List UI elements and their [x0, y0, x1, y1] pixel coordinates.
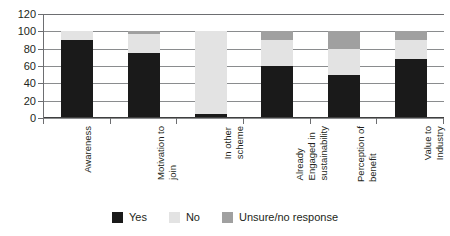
bar-segment-no[interactable]	[61, 31, 93, 40]
bar-segment-yes[interactable]	[61, 40, 93, 118]
stacked-bar[interactable]	[195, 31, 227, 118]
stacked-bar[interactable]	[395, 31, 427, 118]
bar-segment-unsure-no-response[interactable]	[261, 31, 293, 40]
bar-segment-yes[interactable]	[261, 66, 293, 118]
y-axis-tick-mark	[38, 49, 43, 50]
bar-slot	[244, 14, 311, 118]
legend-swatch-icon	[112, 212, 123, 223]
legend-item[interactable]: No	[169, 212, 200, 223]
y-axis-tick-label: 60	[24, 61, 36, 72]
y-axis-tick-label: 100	[18, 26, 36, 37]
y-axis-tick-labels: 120100806040200	[0, 0, 36, 122]
bar-segment-no[interactable]	[128, 34, 160, 53]
y-axis-tick-mark	[38, 31, 43, 32]
stacked-bar[interactable]	[328, 31, 360, 118]
x-axis-label-slot: Value to Industry	[376, 124, 443, 198]
bar-segment-yes[interactable]	[128, 53, 160, 118]
chart-legend: YesNoUnsure/no response	[0, 204, 450, 230]
y-axis-tick-mark	[38, 14, 43, 15]
x-axis-category-labels: AwarenessMotivation to joinIn other sche…	[43, 124, 443, 198]
stacked-bar[interactable]	[128, 31, 160, 118]
x-axis-label-slot: In other scheme	[176, 124, 243, 198]
bar-segment-no[interactable]	[261, 40, 293, 66]
legend-label: Yes	[129, 212, 147, 223]
legend-swatch-icon	[169, 212, 180, 223]
legend-item[interactable]: Unsure/no response	[222, 212, 338, 223]
bar-segment-no[interactable]	[328, 49, 360, 75]
bar-slot	[177, 14, 244, 118]
x-axis-label-slot: Perception of benefit	[310, 124, 377, 198]
legend-label: No	[186, 212, 200, 223]
x-axis-tick-mark	[443, 118, 444, 124]
bar-segment-unsure-no-response[interactable]	[395, 31, 427, 40]
x-axis-label-slot: Motivation to join	[110, 124, 177, 198]
x-axis-label-slot: Awareness	[43, 124, 110, 198]
x-axis-category-label: Value to Industry	[422, 126, 446, 160]
stacked-bar[interactable]	[261, 31, 293, 118]
y-axis-tick-mark	[38, 101, 43, 102]
y-axis-tick-label: 80	[24, 43, 36, 54]
bar-slot	[111, 14, 178, 118]
y-axis-tick-mark	[38, 83, 43, 84]
y-axis-tick-label: 20	[24, 95, 36, 106]
legend-label: Unsure/no response	[239, 212, 338, 223]
bar-segment-no[interactable]	[195, 31, 227, 113]
legend-swatch-icon	[222, 212, 233, 223]
bar-group	[44, 14, 444, 118]
bar-segment-yes[interactable]	[328, 75, 360, 118]
bar-slot	[311, 14, 378, 118]
bar-segment-no[interactable]	[395, 40, 427, 59]
y-axis-tick-label: 40	[24, 78, 36, 89]
y-axis-tick-label: 0	[30, 113, 36, 124]
y-axis-tick-mark	[38, 66, 43, 67]
x-axis-category-label: Awareness	[82, 126, 94, 173]
plot-wrapper: 120100806040200 AwarenessMotivation to j…	[0, 0, 450, 200]
plot-area	[43, 14, 444, 118]
y-axis-tick-label: 120	[18, 9, 36, 20]
bar-segment-yes[interactable]	[395, 59, 427, 118]
legend-item[interactable]: Yes	[112, 212, 147, 223]
stacked-bar[interactable]	[61, 31, 93, 118]
bar-slot	[377, 14, 444, 118]
bar-segment-unsure-no-response[interactable]	[328, 31, 360, 48]
x-axis-label-slot: Already Engaged in sustainability	[243, 124, 310, 198]
chart-figure: 120100806040200 AwarenessMotivation to j…	[0, 0, 450, 236]
y-axis-tick-mark	[38, 118, 43, 119]
bar-slot	[44, 14, 111, 118]
